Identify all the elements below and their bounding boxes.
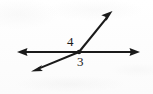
figure-drawing — [0, 0, 153, 94]
transversal-lower-left-ray — [39, 52, 80, 69]
angle-label-4: 4 — [67, 35, 74, 48]
transversal-upper-right-ray — [79, 18, 107, 52]
angle-label-3: 3 — [77, 55, 84, 68]
geometry-figure: 4 3 — [0, 0, 153, 94]
arrowhead-left-icon — [17, 48, 28, 56]
arrowhead-upper-right-icon — [101, 11, 112, 21]
arrowhead-right-icon — [130, 48, 141, 56]
